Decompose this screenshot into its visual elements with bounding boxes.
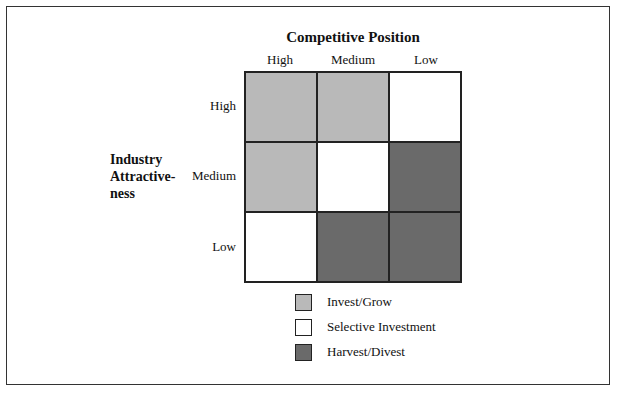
column-label-medium: Medium — [317, 52, 389, 68]
matrix-grid — [244, 71, 462, 283]
cell-medium-low — [389, 142, 461, 212]
legend-item-harvest-divest: Harvest/Divest — [295, 342, 405, 362]
row-label-high: High — [176, 98, 236, 114]
column-axis-title: Competitive Position — [244, 29, 462, 46]
cell-low-medium — [317, 212, 389, 282]
cell-low-low — [389, 212, 461, 282]
legend-label: Invest/Grow — [327, 294, 392, 310]
legend-swatch-selective-investment — [295, 319, 312, 336]
row-label-medium: Medium — [176, 168, 236, 184]
cell-high-high — [245, 72, 317, 142]
row-axis-title-line-2: Attractive- — [110, 168, 175, 185]
legend-label: Selective Investment — [327, 319, 436, 335]
cell-low-high — [245, 212, 317, 282]
row-label-low: Low — [176, 239, 236, 255]
legend-swatch-harvest-divest — [295, 344, 312, 361]
legend-swatch-invest-grow — [295, 294, 312, 311]
legend-item-selective-investment: Selective Investment — [295, 317, 436, 337]
row-axis-title-line-1: Industry — [110, 151, 175, 168]
legend-label: Harvest/Divest — [327, 344, 405, 360]
column-label-low: Low — [390, 52, 462, 68]
cell-high-low — [389, 72, 461, 142]
row-axis-title-line-3: ness — [110, 185, 175, 202]
row-axis-title: Industry Attractive- ness — [110, 151, 175, 202]
cell-medium-high — [245, 142, 317, 212]
cell-medium-medium — [317, 142, 389, 212]
legend-item-invest-grow: Invest/Grow — [295, 292, 392, 312]
column-label-high: High — [244, 52, 316, 68]
cell-high-medium — [317, 72, 389, 142]
